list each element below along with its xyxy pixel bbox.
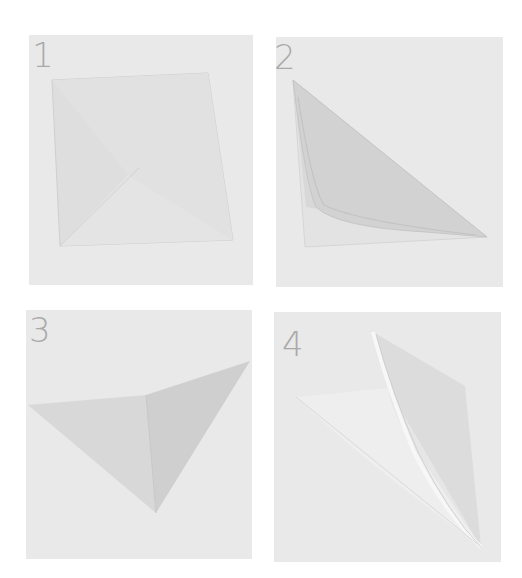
paper-folded-corner-illustration: [26, 310, 252, 559]
step-number: 1: [32, 38, 54, 72]
step-number: 4: [282, 327, 304, 361]
step-2-panel: 2: [276, 37, 503, 287]
paper-square-illustration: [29, 35, 253, 285]
step-number: 3: [29, 313, 51, 347]
step-4-panel: 4: [274, 312, 501, 562]
paper-triangle-illustration: [276, 37, 503, 287]
paper-lifted-flap-illustration: [274, 312, 501, 562]
step-number: 2: [276, 40, 296, 74]
step-3-panel: 3: [26, 310, 252, 559]
step-1-panel: 1: [29, 35, 253, 285]
